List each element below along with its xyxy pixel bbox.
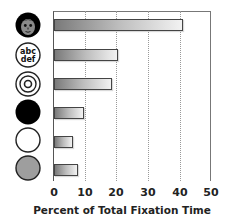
- x-tick-30: 30: [140, 186, 155, 199]
- icon-text-line2: def: [21, 55, 36, 64]
- bar-5: [54, 136, 73, 148]
- x-tick-20: 20: [108, 186, 123, 199]
- x-tick-40: 40: [172, 186, 187, 199]
- bar-3: [54, 78, 112, 90]
- gridline-40: [180, 11, 181, 181]
- x-tick-50: 50: [203, 186, 218, 199]
- x-tick-0: 0: [50, 186, 58, 199]
- gridline-20: [116, 11, 117, 181]
- gray-disk-icon: [15, 155, 41, 181]
- horizontal-bar-chart: 0 10 20 30 40 50 Percent of Total Fixati…: [0, 0, 226, 222]
- bar-1: [54, 19, 183, 31]
- x-axis-label: Percent of Total Fixation Time: [0, 204, 226, 216]
- concentric-circles-icon: [15, 71, 41, 97]
- bar-6: [54, 164, 78, 176]
- gridline-30: [148, 11, 149, 181]
- bar-2: [54, 49, 118, 61]
- face-icon: [15, 12, 41, 38]
- white-disk-icon: [15, 127, 41, 153]
- gridline-10: [85, 11, 86, 181]
- text-abc-def-icon: abc def: [15, 42, 41, 68]
- x-tick-10: 10: [77, 186, 92, 199]
- black-disk-icon: [15, 99, 41, 125]
- bar-4: [54, 107, 84, 119]
- plot-frame: [53, 11, 211, 181]
